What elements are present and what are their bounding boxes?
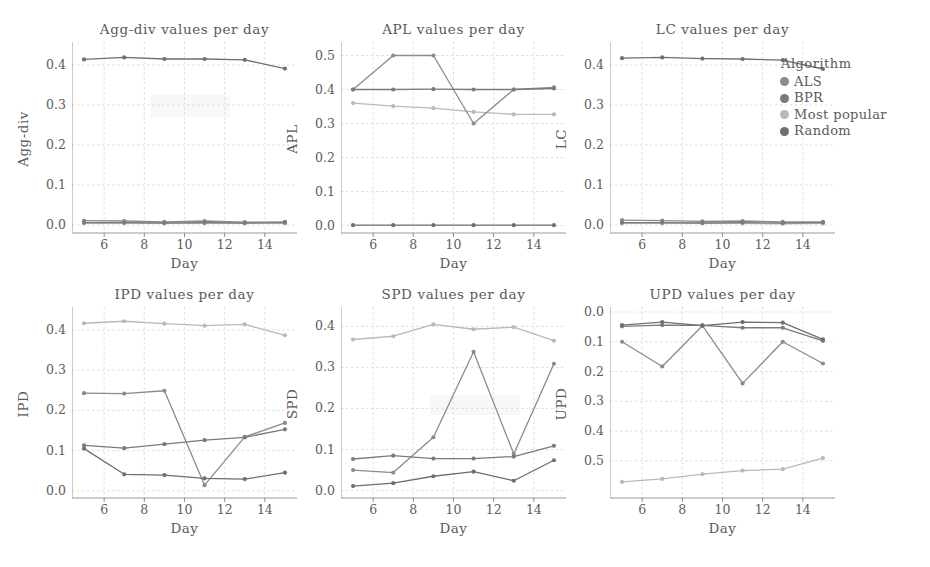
data-point <box>351 87 355 91</box>
x-tick-label: 14 <box>787 502 819 517</box>
data-point <box>431 223 435 227</box>
data-point <box>740 469 744 473</box>
data-point <box>620 221 624 225</box>
y-tick-label: 0.2 <box>548 137 604 152</box>
legend-items: ALSBPRMost popularRandom <box>780 74 887 140</box>
x-tick-label: 8 <box>128 237 160 252</box>
data-point <box>512 112 516 116</box>
data-point <box>620 56 624 60</box>
y-tick-label: 0.3 <box>548 393 604 408</box>
data-point <box>740 326 744 330</box>
data-point <box>202 221 206 225</box>
chart-panel-ipd: IPD values per dayIPDDay0.00.10.20.30.46… <box>10 286 297 544</box>
chart-title-ipd: IPD values per day <box>72 286 297 302</box>
x-tick-label: 6 <box>357 237 389 252</box>
data-point <box>620 340 624 344</box>
x-tick-label: 12 <box>478 237 510 252</box>
x-tick-label: 10 <box>707 502 739 517</box>
y-tick-label: 0.4 <box>548 423 604 438</box>
y-tick-label: 0.1 <box>548 334 604 349</box>
x-tick-label: 6 <box>88 502 120 517</box>
legend-item-label: BPR <box>794 90 823 107</box>
data-point <box>431 322 435 326</box>
legend-item-random[interactable]: Random <box>780 123 887 140</box>
data-point <box>391 223 395 227</box>
data-point <box>351 101 355 105</box>
data-point <box>202 324 206 328</box>
legend-marker-icon <box>780 77 789 86</box>
x-tick-label: 10 <box>707 237 739 252</box>
chart-title-apl: APL values per day <box>341 21 566 37</box>
data-point <box>391 481 395 485</box>
data-point <box>471 223 475 227</box>
data-point <box>471 350 475 354</box>
data-point <box>122 319 126 323</box>
y-tick-label: 0.2 <box>279 400 335 415</box>
data-point <box>740 221 744 225</box>
x-tick-label: 14 <box>787 237 819 252</box>
data-point <box>781 340 785 344</box>
x-axis-label-apl: Day <box>341 255 566 271</box>
data-point <box>620 323 624 327</box>
data-point <box>660 320 664 324</box>
data-point <box>821 337 825 341</box>
data-point <box>431 456 435 460</box>
x-tick-label: 12 <box>747 502 779 517</box>
x-tick-label: 10 <box>169 502 201 517</box>
data-point <box>122 446 126 450</box>
y-tick-label: 0.1 <box>279 184 335 199</box>
data-point <box>512 223 516 227</box>
x-tick-label: 14 <box>249 502 281 517</box>
x-tick-label: 12 <box>478 502 510 517</box>
data-point <box>82 57 86 61</box>
y-tick-label: 0.4 <box>548 57 604 72</box>
data-point <box>82 391 86 395</box>
y-tick-label: 0.2 <box>279 150 335 165</box>
data-point <box>391 470 395 474</box>
y-tick-label: 0.1 <box>279 442 335 457</box>
series-most-popular <box>620 456 825 484</box>
data-point <box>82 321 86 325</box>
x-tick-label: 8 <box>128 502 160 517</box>
data-point <box>660 55 664 59</box>
data-point <box>202 483 206 487</box>
data-point <box>660 477 664 481</box>
data-point <box>471 327 475 331</box>
y-tick-label: 0.2 <box>10 402 66 417</box>
x-tick-label: 12 <box>209 502 241 517</box>
x-axis-label-ipd: Day <box>72 520 297 536</box>
data-point <box>471 456 475 460</box>
legend-title: Algorithm <box>780 56 887 73</box>
y-tick-label: 0.0 <box>10 217 66 232</box>
data-point <box>471 110 475 114</box>
legend-item-als[interactable]: ALS <box>780 74 887 91</box>
chart-panel-spd: SPD values per daySPDDay0.00.10.20.30.46… <box>279 286 566 544</box>
y-tick-label: 0.1 <box>10 443 66 458</box>
data-point <box>740 57 744 61</box>
data-point <box>162 442 166 446</box>
x-axis-label-lc: Day <box>610 255 835 271</box>
x-tick-label: 12 <box>209 237 241 252</box>
data-point <box>431 474 435 478</box>
y-tick-label: 0.4 <box>279 318 335 333</box>
y-tick-label: 0.4 <box>10 57 66 72</box>
data-point <box>700 221 704 225</box>
data-point <box>821 456 825 460</box>
data-point <box>82 221 86 225</box>
legend-item-most-popular[interactable]: Most popular <box>780 107 887 124</box>
data-point <box>512 325 516 329</box>
x-tick-label: 10 <box>438 502 470 517</box>
data-point <box>781 326 785 330</box>
x-tick-label: 6 <box>88 237 120 252</box>
data-point <box>351 468 355 472</box>
x-tick-label: 6 <box>626 502 658 517</box>
x-axis-label-upd: Day <box>610 520 835 536</box>
x-tick-label: 10 <box>438 237 470 252</box>
chart-title-spd: SPD values per day <box>341 286 566 302</box>
legend-marker-icon <box>780 127 789 136</box>
plot-area-spd <box>341 307 576 503</box>
data-point <box>162 389 166 393</box>
legend-item-bpr[interactable]: BPR <box>780 90 887 107</box>
data-point <box>243 221 247 225</box>
y-tick-label: 0.0 <box>279 483 335 498</box>
